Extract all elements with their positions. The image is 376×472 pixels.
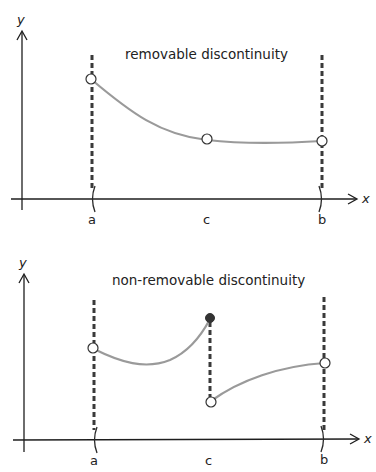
discontinuity-diagram: y x removable discontinuity a c b y x: [0, 0, 376, 472]
panel-non-removable: y x non-removable discontinuity a c b: [13, 255, 372, 468]
x-axis: [13, 439, 358, 440]
tick-label-a: a: [90, 453, 98, 468]
open-point-b: [317, 136, 327, 146]
panel-removable: y x removable discontinuity a c b: [11, 12, 370, 227]
panel-title: removable discontinuity: [125, 46, 288, 62]
panel-title: non-removable discontinuity: [112, 272, 305, 288]
tick-label-c: c: [203, 212, 210, 227]
tick-label-b: b: [318, 212, 326, 227]
open-point-b: [320, 358, 330, 368]
x-axis-label: x: [363, 431, 372, 446]
open-point-c: [202, 134, 212, 144]
open-point-c: [206, 397, 216, 407]
y-axis-label: y: [16, 12, 25, 27]
function-curve-right: [211, 363, 325, 401]
tick-label-a: a: [88, 212, 96, 227]
open-point-a: [86, 74, 96, 84]
closed-point-c: [206, 314, 215, 323]
tick-label-b: b: [320, 452, 328, 467]
x-axis-label: x: [361, 191, 370, 206]
y-axis-label: y: [18, 255, 27, 270]
open-point-a: [88, 343, 98, 353]
function-curve-left: [94, 319, 210, 364]
tick-label-c: c: [205, 453, 212, 468]
